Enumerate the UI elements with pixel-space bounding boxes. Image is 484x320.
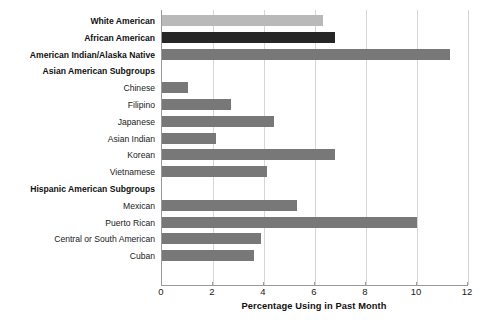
x-tick-label: 0 [158,286,163,298]
x-tick-label: 2 [209,286,214,298]
x-tick-label: 4 [260,286,265,298]
section-header-label: Asian American Subgroups [0,66,155,76]
category-label: Japanese [0,117,155,127]
bar [162,149,335,160]
x-tick-label: 6 [311,286,316,298]
bar [162,116,274,127]
bar [162,233,261,244]
x-tick-label: 8 [362,286,367,298]
bars-layer [162,10,468,285]
category-label: American Indian/Alaska Native [0,50,155,60]
bar [162,133,216,144]
section-header-label: Hispanic American Subgroups [0,184,155,194]
bar [162,82,188,93]
x-tick-label: 12 [462,286,473,298]
plot-area [161,10,468,286]
bar [162,49,450,60]
gridline-12 [468,10,469,285]
category-label-column: White AmericanAfrican AmericanAmerican I… [0,10,158,285]
category-label: Mexican [0,201,155,211]
x-axis-title: Percentage Using in Past Month [161,301,467,311]
category-label: African American [0,33,155,43]
category-label: White American [0,16,155,26]
bar-chart-figure: White AmericanAfrican AmericanAmerican I… [0,0,484,320]
bar [162,99,231,110]
bar [162,32,335,43]
category-label: Cuban [0,251,155,261]
x-tick-label: 10 [411,286,422,298]
bar [162,15,323,26]
bar [162,250,254,261]
category-label: Central or South American [0,234,155,244]
bar [162,217,417,228]
category-label: Korean [0,150,155,160]
category-label: Filipino [0,100,155,110]
x-axis: 024681012 [161,286,467,300]
category-label: Chinese [0,83,155,93]
category-label: Puerto Rican [0,218,155,228]
bar [162,200,297,211]
category-label: Asian Indian [0,134,155,144]
bar [162,166,267,177]
category-label: Vietnamese [0,167,155,177]
